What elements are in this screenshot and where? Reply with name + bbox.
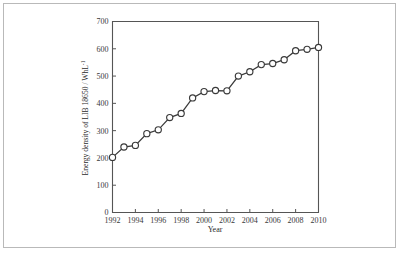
axis-box	[113, 22, 319, 213]
x-axis-title: Year	[208, 225, 223, 234]
x-tick-label: 2008	[288, 216, 304, 225]
data-point	[212, 87, 218, 93]
data-point	[235, 73, 241, 79]
x-tick-label: 2002	[219, 216, 235, 225]
y-tick-label-group: 0100200300400500600700	[97, 17, 109, 217]
data-series-line	[113, 47, 319, 157]
data-point	[258, 62, 264, 68]
y-tick-label: 300	[97, 127, 109, 136]
x-tick-label: 2004	[242, 216, 258, 225]
data-point	[270, 60, 276, 66]
x-tick-label: 1992	[105, 216, 121, 225]
y-tick-label: 500	[97, 72, 109, 81]
y-axis-title-exponent: -1	[80, 60, 86, 65]
data-point-markers	[109, 44, 321, 160]
x-tick-label: 1996	[150, 216, 166, 225]
data-point	[121, 144, 127, 150]
x-tick-label: 2000	[196, 216, 212, 225]
data-point	[293, 48, 299, 54]
y-axis-title-text: Energy density of LIB 18650 / WhL	[81, 65, 90, 176]
y-tick-label: 600	[97, 45, 109, 54]
y-tick-label: 200	[97, 154, 109, 163]
data-point	[224, 88, 230, 94]
data-point	[281, 57, 287, 63]
line-chart: 0100200300400500600700 19921994199619982…	[0, 0, 401, 253]
data-point	[304, 46, 310, 52]
data-point	[201, 89, 207, 95]
y-tick-label: 400	[97, 99, 109, 108]
y-tick-label: 700	[97, 17, 109, 26]
data-point	[155, 127, 161, 133]
y-axis-title: Energy density of LIB 18650 / WhL-1	[80, 60, 90, 175]
x-tick-label: 2006	[265, 216, 281, 225]
x-tick-label: 1998	[173, 216, 189, 225]
data-point	[315, 44, 321, 50]
data-point	[178, 110, 184, 116]
x-tick-label-group: 1992199419961998200020022004200620082010	[105, 216, 327, 225]
y-tick-label: 100	[97, 181, 109, 190]
data-point	[167, 114, 173, 120]
data-point	[190, 95, 196, 101]
data-point	[132, 142, 138, 148]
x-tick-label: 2010	[311, 216, 327, 225]
axis-frame	[113, 22, 319, 213]
chart-root: 0100200300400500600700 19921994199619982…	[0, 0, 401, 253]
data-point	[109, 154, 115, 160]
x-tick-label: 1994	[127, 216, 143, 225]
data-point	[144, 131, 150, 137]
data-point	[247, 69, 253, 75]
